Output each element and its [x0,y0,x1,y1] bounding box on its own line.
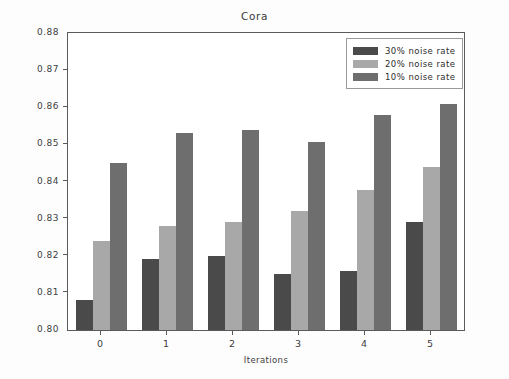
legend-item-label: 20% noise rate [385,59,455,69]
x-axis-tick-label: 3 [278,338,318,349]
bar [308,142,325,330]
legend-item-label: 30% noise rate [385,46,455,56]
y-axis-tick-label: 0.81 [37,287,59,297]
bar [76,300,93,330]
y-axis-tick: 0.87 [37,63,67,75]
y-axis-tick: 0.82 [37,249,67,261]
bar [357,190,374,330]
legend-color-swatch [353,47,378,55]
bar [176,133,193,330]
y-axis-tick-label: 0.80 [37,324,59,334]
chart-legend: 30% noise rate20% noise rate10% noise ra… [346,38,463,89]
x-axis-tick: 4 [344,331,384,349]
bar [225,222,242,330]
x-axis-title: Iterations [67,355,465,365]
y-axis-tick: 0.81 [37,286,67,298]
x-axis-tick-label: 5 [410,338,450,349]
x-axis-tick-label: 4 [344,338,384,349]
x-axis-tick: 5 [410,331,450,349]
bar [440,104,457,330]
chart-figure: Cora 0.800.810.820.830.840.850.860.870.8… [0,0,509,379]
y-axis-tick: 0.88 [37,26,67,38]
x-axis-tick: 3 [278,331,318,349]
bar [242,130,259,330]
y-axis-tick-label: 0.86 [37,101,59,111]
legend-item: 30% noise rate [353,44,455,57]
x-axis-tick-label: 0 [80,338,120,349]
y-axis-tick: 0.86 [37,100,67,112]
bar [291,211,308,330]
legend-color-swatch [353,73,378,81]
bar [159,226,176,330]
bar [274,274,291,330]
legend-item: 20% noise rate [353,57,455,70]
legend-item-label: 10% noise rate [385,72,455,82]
x-axis-tick-mark [100,331,101,335]
x-axis-tick: 0 [80,331,120,349]
y-axis-tick: 0.84 [37,175,67,187]
y-axis-tick-label: 0.83 [37,213,59,223]
legend-item: 10% noise rate [353,70,455,83]
x-axis-tick-mark [430,331,431,335]
x-axis-tick-mark [364,331,365,335]
bar [423,167,440,330]
y-axis: 0.800.810.820.830.840.850.860.870.88 [0,32,67,331]
y-axis-tick: 0.80 [37,323,67,335]
x-axis: 012345 [67,331,465,355]
x-axis-tick-mark [166,331,167,335]
x-axis-tick-mark [298,331,299,335]
x-axis-tick-label: 2 [212,338,252,349]
chart-title: Cora [0,10,509,22]
bar [406,222,423,330]
y-axis-tick: 0.83 [37,212,67,224]
y-axis-tick-label: 0.88 [37,27,59,37]
x-axis-tick: 1 [146,331,186,349]
chart-title-text: Cora [241,10,268,22]
y-axis-tick-label: 0.84 [37,176,59,186]
x-axis-tick: 2 [212,331,252,349]
bar [374,115,391,330]
y-axis-tick-label: 0.87 [37,64,59,74]
bar [110,163,127,330]
bar [142,259,159,330]
x-axis-tick-label: 1 [146,338,186,349]
y-axis-tick-label: 0.85 [37,138,59,148]
legend-color-swatch [353,60,378,68]
bar [340,271,357,330]
bar [93,241,110,330]
y-axis-tick-label: 0.82 [37,250,59,260]
x-axis-tick-mark [232,331,233,335]
y-axis-tick: 0.85 [37,137,67,149]
bar [208,256,225,330]
